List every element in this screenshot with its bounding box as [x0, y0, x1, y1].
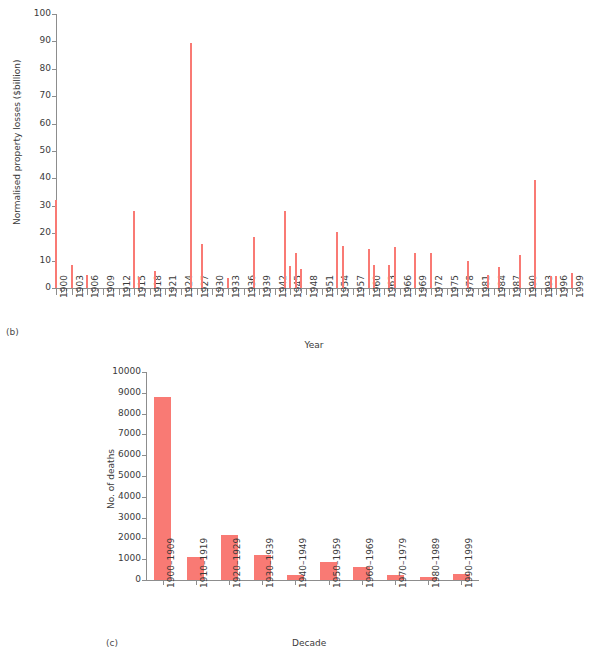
x-tick-major-b [447, 289, 448, 295]
y-axis-title-b: Normalised property losses ($billion) [12, 60, 22, 225]
x-tick-label-b: 1900 [60, 275, 69, 298]
y-tick-label-b: 20 [22, 228, 51, 237]
bar-b [71, 265, 73, 288]
y-tick-label-c: 9000 [106, 388, 141, 397]
x-tick-label-b: 1948 [310, 275, 319, 298]
bar-b [154, 271, 156, 288]
x-tick-major-b [103, 289, 104, 295]
x-tick-label-c: 1930–1939 [266, 538, 275, 588]
x-tick-major-b [119, 289, 120, 295]
x-tick-label-c: 1910–1919 [200, 538, 209, 588]
x-tick-major-b [556, 289, 557, 295]
x-tick-major-b [337, 289, 338, 295]
x-tick-major-b [181, 289, 182, 295]
bar-b [555, 276, 557, 288]
x-tick-c [329, 581, 330, 585]
bar-b [519, 255, 521, 288]
x-tick-major-b [244, 289, 245, 295]
bar-b [368, 249, 370, 288]
y-tick-b [52, 14, 56, 15]
x-tick-major-b [572, 289, 573, 295]
y-tick-c [142, 393, 146, 394]
bar-b [190, 43, 192, 288]
bar-b [300, 269, 302, 288]
bar-b [138, 277, 140, 288]
x-tick-label-b: 1966 [404, 275, 413, 298]
x-tick-major-b [306, 289, 307, 295]
x-tick-major-b [56, 289, 57, 295]
x-tick-major-b [525, 289, 526, 295]
bar-b [571, 273, 573, 288]
x-tick-label-c: 1970–1979 [399, 538, 408, 588]
bar-b [253, 237, 255, 288]
x-tick-major-b [134, 289, 135, 295]
panel-label-b: (b) [6, 327, 19, 337]
y-tick-b [52, 41, 56, 42]
x-tick-c [428, 581, 429, 585]
x-tick-label-b: 1930 [216, 275, 225, 298]
x-tick-label-b: 1975 [451, 275, 460, 298]
x-tick-label-b: 1957 [357, 275, 366, 298]
x-tick-major-b [228, 289, 229, 295]
x-tick-c [461, 581, 462, 585]
x-tick-major-b [509, 289, 510, 295]
y-tick-c [142, 372, 146, 373]
y-tick-b [52, 151, 56, 152]
y-tick-c [142, 559, 146, 560]
bar-b [534, 180, 536, 288]
panel-b-property-losses-chart: 0102030405060708090100190019031906190919… [0, 0, 594, 355]
y-tick-c [142, 414, 146, 415]
x-tick-label-c: 1950–1959 [333, 538, 342, 588]
x-tick-major-b [72, 289, 73, 295]
x-tick-major-b [322, 289, 323, 295]
bar-b [227, 278, 229, 288]
x-tick-label-b: 1999 [576, 275, 585, 298]
x-tick-major-b [541, 289, 542, 295]
bar-b [498, 267, 500, 288]
bar-b [201, 244, 203, 288]
bar-b [342, 246, 344, 288]
x-tick-label-c: 1990–1999 [465, 538, 474, 588]
y-tick-c [142, 476, 146, 477]
x-tick-major-b [275, 289, 276, 295]
x-tick-major-b [431, 289, 432, 295]
y-tick-c [142, 580, 146, 581]
y-tick-b [52, 178, 56, 179]
bar-b [373, 265, 375, 288]
x-tick-label-c: 1920–1929 [233, 538, 242, 588]
bar-b [487, 275, 489, 288]
y-tick-label-b: 60 [22, 119, 51, 128]
y-tick-label-b: 0 [22, 283, 51, 292]
y-axis-title-c: No. of deaths [106, 449, 116, 509]
x-tick-major-b [400, 289, 401, 295]
y-tick-label-c: 2000 [106, 533, 141, 542]
x-tick-major-b [478, 289, 479, 295]
y-tick-label-b: 40 [22, 173, 51, 182]
x-tick-label-c: 1980–1989 [432, 538, 441, 588]
y-tick-label-b: 50 [22, 146, 51, 155]
x-tick-label-b: 1951 [326, 275, 335, 298]
y-tick-label-c: 7000 [106, 429, 141, 438]
bar-b [467, 261, 469, 288]
x-tick-label-b: 1972 [435, 275, 444, 298]
x-tick-major-b [212, 289, 213, 295]
x-tick-major-b [369, 289, 370, 295]
y-tick-label-c: 0 [106, 575, 141, 584]
y-tick-c [142, 518, 146, 519]
x-tick-major-b [415, 289, 416, 295]
y-tick-label-b: 100 [22, 9, 51, 18]
x-tick-major-b [494, 289, 495, 295]
x-tick-label-c: 1960–1969 [366, 538, 375, 588]
bar-b [414, 253, 416, 288]
y-tick-label-c: 8000 [106, 409, 141, 418]
y-tick-label-c: 1000 [106, 554, 141, 563]
x-tick-label-b: 1903 [76, 275, 85, 298]
x-tick-label-c: 1900–1909 [167, 538, 176, 588]
bar-b [289, 266, 291, 288]
y-tick-label-b: 90 [22, 36, 51, 45]
x-tick-c [262, 581, 263, 585]
bar-b [295, 253, 297, 288]
y-axis-line-c [146, 372, 147, 581]
y-tick-label-c: 10000 [106, 367, 141, 376]
bar-b [55, 200, 57, 288]
